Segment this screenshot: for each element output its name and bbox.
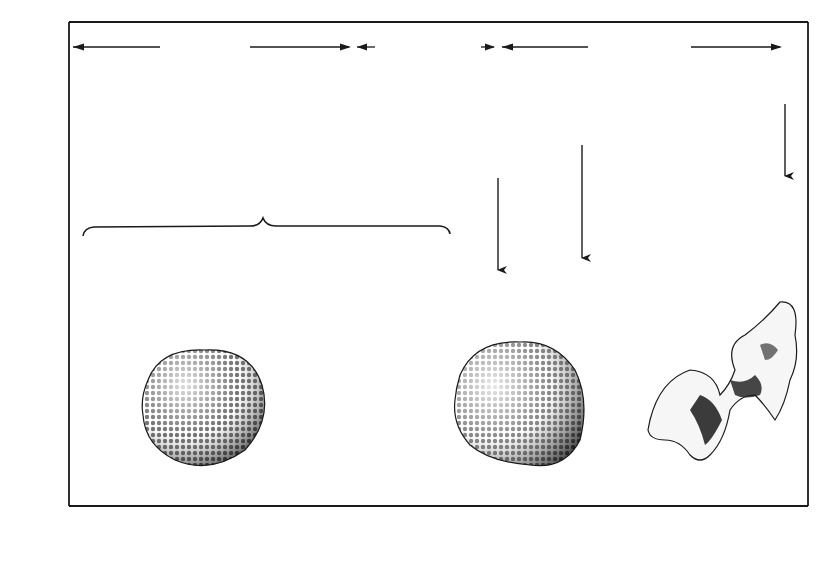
annotation-clearly-defined <box>83 218 450 236</box>
cell-illustration-prophase <box>142 350 265 466</box>
cell-illustration-metaphase <box>455 342 584 466</box>
phase-anaphase <box>502 44 782 51</box>
phase-metaphase <box>357 44 495 51</box>
chart-canvas <box>0 0 835 574</box>
phase-bar <box>73 44 782 51</box>
brace-icon <box>83 218 450 236</box>
phase-prophase <box>73 44 351 51</box>
cell-illustration-elongation <box>648 302 797 460</box>
